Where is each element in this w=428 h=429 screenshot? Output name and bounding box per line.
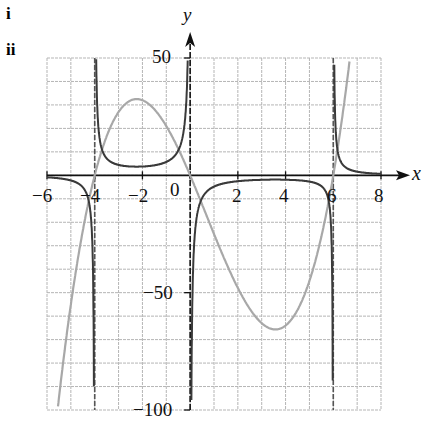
y-axis-label: y: [183, 4, 191, 26]
x-tick-label: −6: [32, 185, 52, 207]
x-tick-label: 2: [232, 185, 242, 207]
x-tick-label: 8: [374, 185, 384, 207]
x-tick-label: −2: [128, 185, 148, 207]
y-tick-label: 50: [152, 46, 171, 68]
y-tick-label: −100: [133, 399, 172, 421]
x-tick-label: 6: [327, 185, 337, 207]
origin-label: 0: [170, 179, 180, 201]
cubic-curve: [58, 62, 350, 407]
x-tick-label: 4: [279, 185, 289, 207]
x-axis-label: x: [412, 162, 421, 185]
x-tick-label: −4: [80, 185, 100, 207]
chart-plot: [0, 0, 428, 429]
y-tick-label: −50: [143, 282, 173, 304]
